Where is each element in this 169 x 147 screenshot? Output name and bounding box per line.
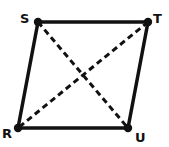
- vertex-point-T: [144, 18, 152, 26]
- vertex-point-R: [14, 124, 22, 132]
- vertex-label-R: R: [2, 126, 12, 141]
- vertex-point-U: [124, 124, 132, 132]
- vertex-label-S: S: [20, 11, 29, 26]
- dashed-diagonals: [18, 22, 148, 128]
- diagonal-TR: [18, 22, 148, 128]
- parallelogram-diagram: STUR: [0, 0, 169, 147]
- vertex-label-T: T: [153, 11, 162, 26]
- side-RS: [18, 22, 38, 128]
- vertex-point-S: [34, 18, 42, 26]
- side-TU: [128, 22, 148, 128]
- vertex-label-U: U: [135, 130, 146, 145]
